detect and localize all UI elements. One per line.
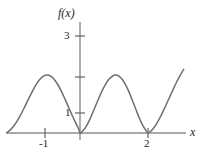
function-graph-figure: f(x) x 3 1 -1 2: [0, 0, 208, 162]
x-tick-label-2: 2: [144, 138, 150, 149]
tick-marks-group: [45, 36, 148, 138]
x-tick-label-minus-1: -1: [39, 138, 48, 149]
y-axis-label: f(x): [58, 7, 75, 19]
graph-canvas: [0, 0, 208, 162]
y-tick-label-1: 1: [65, 107, 71, 118]
function-curve: [7, 69, 184, 133]
x-axis-label: x: [190, 126, 195, 138]
y-tick-label-3: 3: [64, 30, 70, 41]
axes-group: [6, 22, 186, 140]
